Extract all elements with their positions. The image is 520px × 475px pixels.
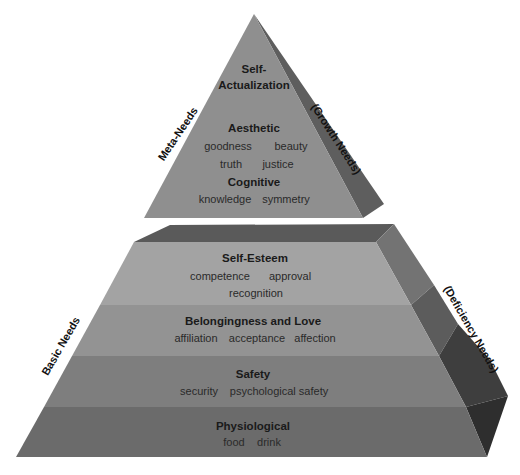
need-item-psychological-safety: psychological safety: [230, 385, 329, 397]
need-item-approval: approval: [269, 270, 311, 282]
need-item-knowledge: knowledge: [199, 193, 252, 205]
need-item-affiliation: affiliation: [174, 332, 217, 344]
need-item-competence: competence: [190, 270, 250, 282]
need-item-goodness: goodness: [204, 140, 252, 152]
need-item-acceptance: acceptance: [229, 332, 285, 344]
level-title-self-actualization-1: Self-: [242, 63, 267, 75]
need-item-affection: affection: [294, 332, 335, 344]
level-safety: [44, 356, 466, 407]
level-title-self-actualization-2: Actualization: [218, 79, 290, 91]
need-item-justice: justice: [261, 158, 293, 170]
maslow-hierarchy-diagram: Self- Actualization Aesthetic goodness b…: [0, 0, 520, 475]
need-item-symmetry: symmetry: [262, 193, 310, 205]
level-title-belonging: Belongingness and Love: [185, 315, 321, 327]
level-title-safety: Safety: [236, 368, 271, 380]
need-item-beauty: beauty: [274, 140, 308, 152]
need-item-food: food: [223, 436, 244, 448]
need-item-security: security: [180, 385, 218, 397]
level-belonging: [72, 305, 439, 356]
level-physiological: [16, 407, 487, 457]
level-title-cognitive: Cognitive: [228, 176, 280, 188]
frustum-top-face: [134, 224, 394, 242]
need-item-truth: truth: [220, 158, 242, 170]
level-title-physiological: Physiological: [216, 420, 290, 432]
level-title-aesthetic: Aesthetic: [228, 122, 280, 134]
need-item-drink: drink: [257, 436, 281, 448]
need-item-recognition: recognition: [229, 287, 283, 299]
level-title-self-esteem: Self-Esteem: [222, 252, 288, 264]
